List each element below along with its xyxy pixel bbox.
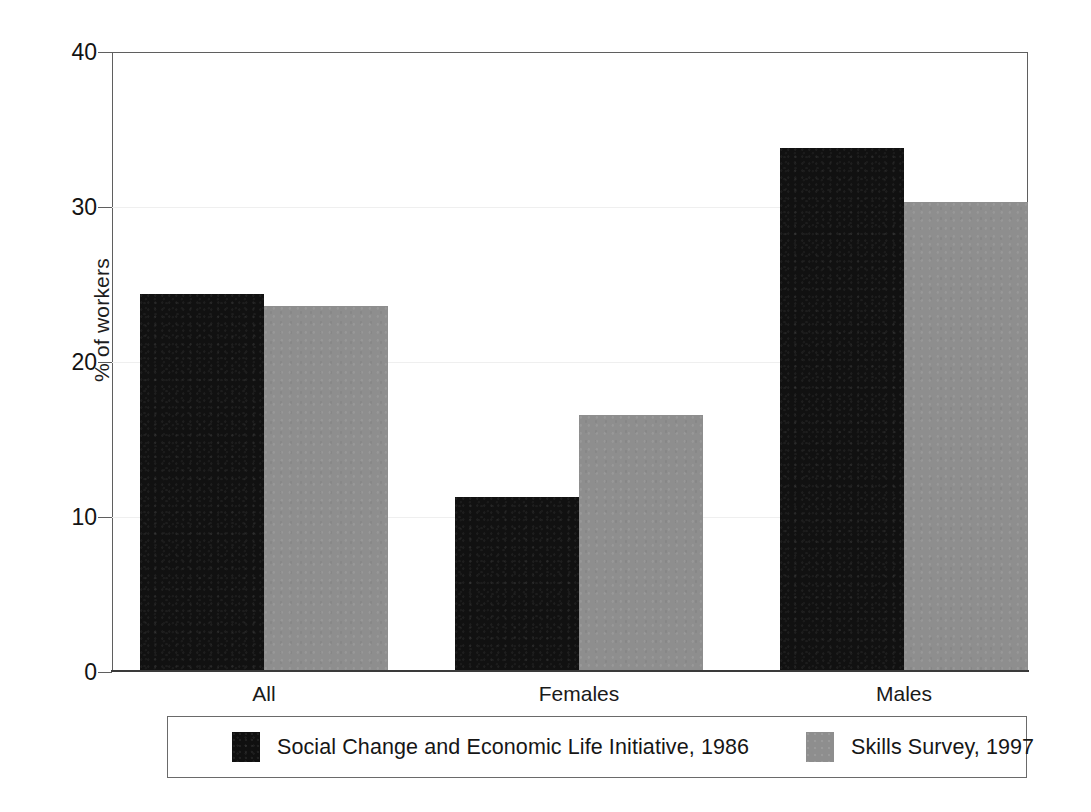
bar-females-series-1: [579, 415, 703, 672]
legend-label-scelia: Social Change and Economic Life Initiati…: [277, 735, 749, 760]
y-tick-label-20: 20: [7, 351, 97, 374]
x-label-all: All: [140, 682, 388, 706]
chart-legend: Social Change and Economic Life Initiati…: [167, 716, 1027, 778]
legend-swatch-light-icon: [806, 732, 834, 762]
bar-all-series-1: [264, 306, 388, 672]
y-tick-label-30: 30: [7, 196, 97, 219]
y-tick-0: [98, 672, 112, 673]
bar-all-series-0: [140, 294, 264, 672]
y-axis-title: % of workers: [90, 220, 114, 420]
legend-swatch-dark-icon: [232, 732, 260, 762]
bar-females-series-0: [455, 497, 579, 672]
bar-males-series-0: [780, 148, 904, 672]
caption-remnant: [0, 801, 1091, 812]
legend-entry-skills-survey: Skills Survey, 1997: [806, 717, 1034, 777]
plot-area: [112, 52, 1028, 672]
plot-top-border: [112, 52, 1028, 53]
y-tick-10: [98, 517, 112, 518]
y-tick-40: [98, 52, 112, 53]
x-label-females: Females: [455, 682, 703, 706]
y-tick-label-40: 40: [7, 41, 97, 64]
chart-page: % of workers 010203040 AllFemalesMales S…: [0, 0, 1091, 812]
y-tick-label-0: 0: [7, 661, 97, 684]
y-tick-20: [98, 362, 112, 363]
bar-males-series-1: [904, 202, 1028, 672]
x-label-males: Males: [780, 682, 1028, 706]
legend-label-skills-survey: Skills Survey, 1997: [851, 735, 1034, 760]
legend-entry-scelia: Social Change and Economic Life Initiati…: [232, 717, 749, 777]
y-tick-label-10: 10: [7, 506, 97, 529]
y-tick-30: [98, 207, 112, 208]
x-axis-baseline: [111, 670, 1029, 672]
